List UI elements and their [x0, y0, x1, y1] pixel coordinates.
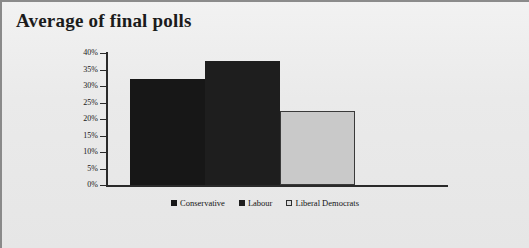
y-axis-tick-label: 5% [64, 165, 98, 173]
square-filled-icon [239, 200, 245, 206]
y-axis-tick-label: 20% [64, 115, 98, 123]
y-axis-tick-label: 0% [64, 181, 98, 189]
legend-item-liberal-democrats[interactable]: Liberal Democrats [286, 198, 358, 208]
bar-chart: 40% 35% 30% 25% 20% 15% 10% 5% 0% [70, 46, 460, 221]
legend-item-labour[interactable]: Labour [239, 198, 273, 208]
square-outline-icon [286, 200, 292, 206]
legend-label: Liberal Democrats [295, 198, 358, 208]
chart-legend: Conservative Labour Liberal Democrats [70, 198, 460, 208]
bar-liberal-democrats[interactable] [280, 111, 355, 185]
bar-labour[interactable] [205, 61, 280, 185]
slide-surface: Average of final polls 40% 35% 30% 25% 2… [0, 0, 529, 248]
page-title: Average of final polls [16, 10, 192, 32]
y-axis-label-group: 40% [70, 49, 98, 57]
y-axis-tick-label: 35% [64, 66, 98, 74]
top-divider [0, 0, 529, 2]
square-filled-icon [171, 200, 177, 206]
y-axis-tick-label: 25% [64, 99, 98, 107]
plot-area [106, 53, 448, 185]
y-axis-tick-label: 40% [64, 49, 98, 57]
legend-item-conservative[interactable]: Conservative [171, 198, 225, 208]
left-divider [0, 0, 2, 248]
x-axis-line [106, 185, 448, 187]
legend-label: Labour [248, 198, 273, 208]
y-axis-tick-label: 15% [64, 132, 98, 140]
y-axis-tick-label: 30% [64, 82, 98, 90]
legend-label: Conservative [180, 198, 225, 208]
y-axis-tick-label: 10% [64, 148, 98, 156]
bar-conservative[interactable] [130, 79, 205, 185]
